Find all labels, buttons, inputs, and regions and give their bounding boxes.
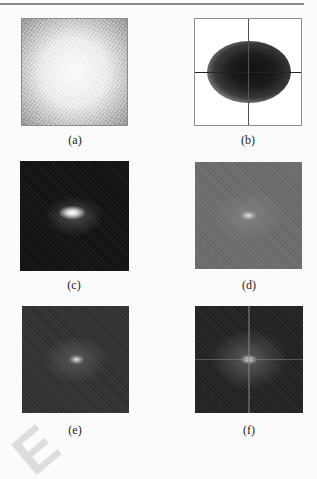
panel-d-spectrum [195, 162, 302, 269]
panel-c-spectrum [20, 161, 129, 271]
panel-f-spectrum [195, 306, 303, 413]
caption-b: (b) [228, 133, 268, 147]
top-rule [0, 3, 304, 5]
watermark: E [5, 405, 83, 479]
panel-b-scatter-plot [194, 18, 302, 126]
caption-a: (a) [55, 133, 95, 147]
caption-c: (c) [54, 278, 94, 292]
panel-a-noise-image [21, 18, 128, 126]
caption-f: (f) [229, 423, 269, 437]
caption-d: (d) [229, 278, 269, 292]
panel-e-spectrum [22, 306, 129, 413]
vertical-axis-line [248, 19, 249, 125]
